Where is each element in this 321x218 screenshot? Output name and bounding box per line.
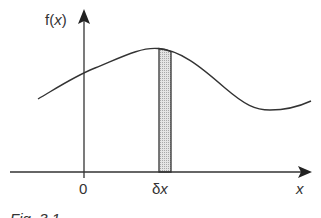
x-axis-label: x (295, 180, 304, 197)
delta-x-strip (159, 49, 171, 173)
y-axis-label: f(x) (45, 11, 67, 28)
figure-caption: Fig. 3.1 (10, 210, 60, 218)
y-axis (78, 9, 90, 178)
origin-label: 0 (79, 180, 87, 197)
function-curve (38, 48, 311, 110)
delta-x-label: δx (152, 180, 168, 197)
diagram: f(x) 0 δx x Fig. 3.1 (0, 0, 321, 218)
